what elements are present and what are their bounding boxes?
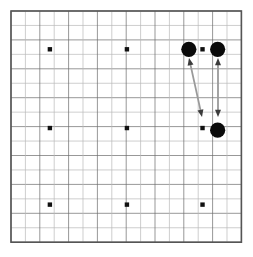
arrows <box>188 58 221 117</box>
arrow-diagonal-double <box>188 58 204 117</box>
arrow-diagonal-double-shaft <box>190 64 200 111</box>
black-stone-upper-left <box>181 42 196 57</box>
star-point-middle-left-icon <box>48 126 52 130</box>
star-point-bottom-center-icon <box>125 202 129 206</box>
black-stone-upper-right <box>210 42 225 57</box>
star-point-center-icon <box>125 126 129 130</box>
arrow-vertical-double-head-end <box>215 110 221 117</box>
star-point-top-left-icon <box>48 47 52 51</box>
black-stone-lower-right <box>210 123 225 138</box>
arrow-vertical-double-head-start <box>215 58 221 65</box>
star-point-bottom-right-icon <box>200 202 204 206</box>
board-canvas <box>0 0 253 257</box>
star-point-top-right-icon <box>200 47 204 51</box>
go-board-diagram <box>0 0 253 257</box>
arrow-diagonal-double-head-start <box>188 58 194 66</box>
arrow-vertical-double <box>215 58 221 117</box>
star-point-top-center-icon <box>125 47 129 51</box>
star-point-middle-right-icon <box>200 126 204 130</box>
star-point-bottom-left-icon <box>48 202 52 206</box>
